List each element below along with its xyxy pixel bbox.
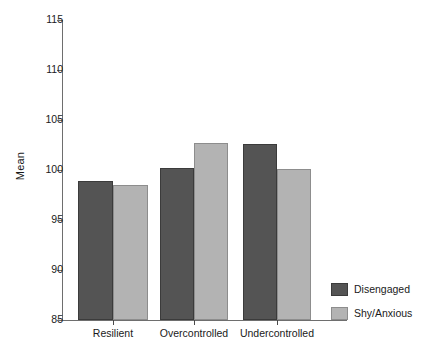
legend-item-label: Disengaged: [354, 283, 410, 295]
bar: [78, 181, 113, 320]
bar: [194, 143, 228, 320]
legend: DisengagedShy/Anxious: [331, 277, 412, 325]
bar: [113, 185, 148, 320]
bar-chart: Mean 115110105100959085 ResilientOvercon…: [0, 0, 424, 354]
bar: [243, 144, 277, 320]
legend-swatch-icon: [331, 307, 348, 320]
legend-item-label: Shy/Anxious: [354, 307, 412, 319]
legend-item[interactable]: Disengaged: [331, 277, 412, 301]
x-axis-category-label: Undercontrolled: [217, 327, 337, 339]
legend-swatch-icon: [331, 283, 348, 296]
bar: [277, 169, 311, 320]
bar: [160, 168, 194, 320]
legend-item[interactable]: Shy/Anxious: [331, 301, 412, 325]
